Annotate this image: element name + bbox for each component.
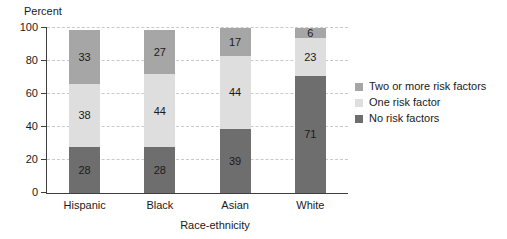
legend-swatch-icon: [355, 99, 363, 107]
segment-value-label: 71: [304, 129, 316, 139]
bar-asian: 394417: [220, 28, 251, 193]
y-tick-0: [41, 192, 47, 193]
bar-white: 71236: [295, 28, 326, 193]
segment-value-label: 23: [304, 52, 316, 62]
segment-value-label: 28: [79, 165, 91, 175]
segment-black: 27: [144, 30, 175, 75]
stacked-bar-chart: Percent 020406080100283833Hispanic284427…: [0, 0, 507, 239]
y-tick-80: [41, 60, 47, 61]
y-tick-40: [41, 126, 47, 127]
bar-black: 284427: [144, 28, 175, 193]
y-tick-60: [41, 93, 47, 94]
segment-value-label: 6: [307, 28, 313, 38]
segment-white: 6: [295, 28, 326, 38]
legend-label: One risk factor: [369, 97, 441, 108]
x-category-label-black: Black: [120, 199, 200, 211]
y-tick-label-40: 40: [26, 121, 38, 132]
segment-white: 71: [295, 76, 326, 193]
segment-hispanic: 38: [69, 84, 100, 147]
segment-asian: 39: [220, 129, 251, 193]
segment-value-label: 44: [229, 87, 241, 97]
legend-label: No risk factors: [369, 113, 439, 124]
segment-value-label: 33: [79, 52, 91, 62]
legend-label: Two or more risk factors: [369, 81, 486, 92]
legend-swatch-icon: [355, 115, 363, 123]
segment-value-label: 27: [154, 47, 166, 57]
y-tick-label-60: 60: [26, 88, 38, 99]
plot-area: 020406080100283833Hispanic284427Black394…: [46, 28, 348, 194]
x-category-label-asian: Asian: [195, 199, 275, 211]
segment-asian: 17: [220, 28, 251, 56]
segment-hispanic: 28: [69, 147, 100, 193]
segment-value-label: 38: [79, 110, 91, 120]
x-axis-title: Race-ethnicity: [150, 219, 280, 231]
bar-hispanic: 283833: [69, 28, 100, 193]
y-tick-100: [41, 27, 47, 28]
legend-item: One risk factor: [355, 97, 486, 108]
legend-swatch-icon: [355, 83, 363, 91]
segment-black: 44: [144, 74, 175, 147]
segment-value-label: 39: [229, 156, 241, 166]
segment-value-label: 44: [154, 106, 166, 116]
segment-hispanic: 33: [69, 30, 100, 84]
legend: Two or more risk factorsOne risk factorN…: [355, 81, 486, 129]
y-tick-label-0: 0: [32, 187, 38, 198]
x-category-label-hispanic: Hispanic: [45, 199, 125, 211]
segment-value-label: 28: [154, 165, 166, 175]
y-tick-label-100: 100: [20, 22, 38, 33]
y-tick-label-80: 80: [26, 55, 38, 66]
segment-asian: 44: [220, 56, 251, 129]
y-axis-title: Percent: [24, 5, 62, 17]
segment-black: 28: [144, 147, 175, 193]
y-tick-20: [41, 159, 47, 160]
segment-value-label: 17: [229, 37, 241, 47]
legend-item: No risk factors: [355, 113, 486, 124]
y-tick-label-20: 20: [26, 154, 38, 165]
legend-item: Two or more risk factors: [355, 81, 486, 92]
x-category-label-white: White: [270, 199, 350, 211]
segment-white: 23: [295, 38, 326, 76]
